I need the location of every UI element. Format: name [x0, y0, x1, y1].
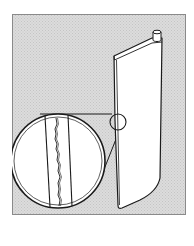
turbine-blade: [114, 38, 162, 208]
magnified-inset: [11, 114, 105, 208]
illustration-svg: [0, 0, 194, 246]
blade-crack-illustration: Line illustration of a turbine/fan blade…: [0, 0, 194, 246]
blade-root-cap: [153, 30, 161, 41]
